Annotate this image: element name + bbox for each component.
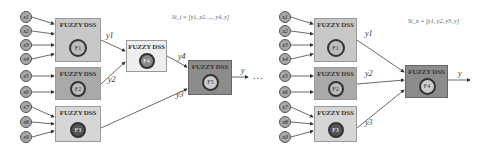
edge-label-y4: y4 (178, 52, 186, 61)
formula-st-i: St_i = [y1, y2, ..., y4, y] (172, 14, 229, 20)
input-node: x7 (20, 101, 32, 113)
node-f2: F2 (328, 81, 344, 97)
box-title: FUZZY DSS (56, 70, 100, 78)
box-title: FUZZY DSS (56, 21, 100, 29)
input-node: x4 (279, 53, 291, 65)
edge-label-y1: y1 (365, 29, 373, 38)
input-node: x6 (20, 86, 32, 98)
input-node: x8 (279, 116, 291, 128)
edge-label-y3: y3 (365, 118, 373, 127)
node-f1: F1 (327, 39, 345, 57)
ellipsis-separator: ... (253, 70, 264, 81)
fuzzy-dss-box-f1: FUZZY DSS F1 (55, 18, 101, 62)
fuzzy-dss-box-f3: FUZZY DSS F3 (314, 106, 357, 142)
box-title: FUZZY DSS (315, 70, 356, 78)
input-node: x6 (279, 86, 291, 98)
edge-label-y2: y2 (108, 75, 116, 84)
node-f3: F3 (70, 122, 86, 138)
input-node: x2 (279, 25, 291, 37)
node-f5: F5 (202, 74, 219, 91)
input-node: x9 (279, 131, 291, 143)
formula-st-n: St_n = [y1, y2, y3, y] (408, 18, 459, 24)
input-node: x1 (20, 11, 32, 23)
box-title: FUZZY DSS (315, 21, 356, 29)
input-node: x7 (279, 101, 291, 113)
edge-label-y3: y3 (176, 90, 184, 99)
box-title: FUZZY DSS (127, 43, 166, 51)
input-node: x1 (279, 11, 291, 23)
output-label-y: y (241, 66, 245, 75)
node-f4: F4 (419, 78, 436, 95)
input-node: x2 (20, 25, 32, 37)
input-node: x8 (20, 116, 32, 128)
fuzzy-dss-box-f2: FUZZY DSS F2 (55, 67, 101, 100)
fuzzy-dss-box-f2: FUZZY DSS F2 (314, 67, 357, 100)
fuzzy-dss-box-f4: FUZZY DSS F4 (126, 40, 167, 72)
box-title: FUZZY DSS (189, 63, 231, 71)
input-node: x3 (279, 39, 291, 51)
input-node: x3 (20, 39, 32, 51)
fuzzy-dss-box-f3: FUZZY DSS F3 (55, 106, 101, 142)
input-node: x5 (20, 70, 32, 82)
node-f4: F4 (139, 53, 155, 69)
box-title: FUZZY DSS (406, 68, 447, 76)
node-f3: F3 (328, 122, 344, 138)
box-title: FUZZY DSS (315, 109, 356, 117)
fuzzy-dss-box-f4: FUZZY DSS F4 (405, 65, 448, 98)
fuzzy-dss-box-f5: FUZZY DSS F5 (188, 60, 232, 95)
fuzzy-dss-box-f1: FUZZY DSS F1 (314, 18, 357, 62)
box-title: FUZZY DSS (56, 109, 100, 117)
edge-label-y1: y1 (106, 31, 114, 40)
edge-label-y2: y2 (365, 69, 373, 78)
input-node: x5 (279, 70, 291, 82)
input-node: x4 (20, 53, 32, 65)
node-f1: F1 (69, 39, 87, 57)
node-f2: F2 (70, 81, 86, 97)
output-label-y: y (458, 69, 462, 78)
input-node: x9 (20, 131, 32, 143)
